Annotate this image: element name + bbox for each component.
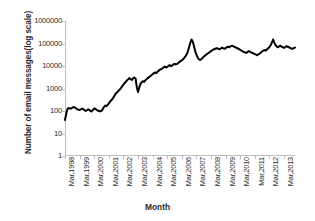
x-tick-label: Mar,1998 — [68, 157, 76, 186]
x-tick-label: Mar,2004 — [156, 157, 164, 186]
y-tick-label: 10000 — [6, 62, 62, 70]
x-tick-label: Mar,2005 — [170, 157, 178, 186]
x-tick-label: Mar,2010 — [243, 157, 251, 186]
x-tick-label: Mar,2008 — [214, 157, 222, 186]
y-tick-mark — [62, 89, 65, 90]
y-tick-label: 1000000 — [6, 17, 62, 25]
x-tick-label: Mar,2007 — [199, 157, 207, 186]
x-tick-label: Mar,2013 — [287, 157, 295, 186]
x-tick-label: Mar,2003 — [141, 157, 149, 186]
x-tick-label: Mar,1999 — [83, 157, 91, 186]
y-tick-label: 10 — [6, 130, 62, 138]
y-tick-label: 1000 — [6, 85, 62, 93]
x-tick-label: Mar,2002 — [126, 157, 134, 186]
x-tick-label: Mar,2000 — [97, 157, 105, 186]
y-tick-label: 1 — [6, 152, 62, 160]
y-axis-tick-labels: 1000000100000100001000100101 — [4, 0, 62, 221]
x-axis-title: Month — [0, 202, 315, 212]
y-tick-mark — [62, 66, 65, 67]
y-tick-mark — [62, 44, 65, 45]
x-tick-label: Mar,2006 — [185, 157, 193, 186]
y-tick-label: 100000 — [6, 40, 62, 48]
y-tick-mark — [62, 134, 65, 135]
x-tick-label: Mar,2011 — [258, 157, 266, 186]
y-tick-label: 100 — [6, 107, 62, 115]
y-tick-mark — [62, 21, 65, 22]
x-tick-label: Mar,2001 — [112, 157, 120, 186]
y-tick-mark — [62, 111, 65, 112]
x-tick-label: Mar,2012 — [272, 157, 280, 186]
data-series-line — [65, 21, 295, 156]
chart-figure: Number of email messages(log scale) 1000… — [0, 0, 315, 221]
plot-area — [65, 21, 295, 156]
x-tick-label: Mar,2009 — [229, 157, 237, 186]
x-axis-tick-labels: Mar,1998Mar,1999Mar,2000Mar,2001Mar,2002… — [65, 157, 295, 203]
